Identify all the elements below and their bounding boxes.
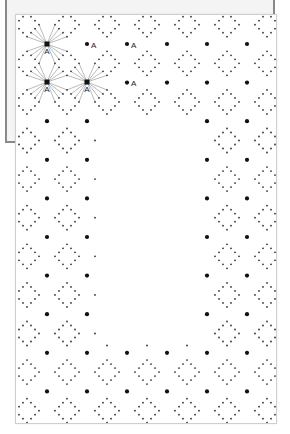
small-dot (194, 375, 196, 377)
small-dot (78, 371, 80, 373)
grid-dot (205, 389, 209, 393)
small-dot (230, 148, 232, 150)
small-dot (274, 406, 276, 408)
small-dot (182, 54, 184, 56)
small-dot (66, 205, 68, 207)
small-dot (74, 290, 76, 292)
small-dot (58, 414, 60, 416)
small-dot (262, 379, 264, 381)
small-dot (34, 182, 36, 184)
small-dot (106, 12, 108, 14)
small-dot (230, 225, 232, 227)
small-dot (270, 93, 272, 95)
small-dot (38, 178, 40, 180)
grid-dot (205, 312, 209, 316)
small-dot (198, 410, 200, 412)
small-dot (154, 375, 156, 377)
small-dot (38, 410, 40, 412)
small-dot (18, 28, 20, 30)
small-dot (66, 345, 68, 347)
small-dot (74, 375, 76, 377)
small-dot (14, 217, 16, 219)
small-dot (278, 24, 280, 26)
small-dot (98, 406, 100, 408)
small-dot (222, 70, 224, 72)
small-dot (234, 406, 236, 408)
small-dot (98, 105, 100, 107)
small-dot (66, 306, 68, 308)
small-dot (94, 178, 96, 180)
small-dot (114, 414, 116, 416)
small-dot (270, 247, 272, 249)
small-dot (218, 28, 220, 30)
small-dot (258, 144, 260, 146)
small-dot (270, 302, 272, 304)
small-dot (102, 109, 104, 111)
grid-dot (45, 274, 49, 278)
small-dot (146, 398, 148, 400)
small-dot (30, 132, 32, 134)
small-dot (226, 36, 228, 38)
small-dot (234, 298, 236, 300)
small-dot (178, 28, 180, 30)
small-dot (178, 97, 180, 99)
small-dot (226, 229, 228, 231)
small-dot (26, 166, 28, 168)
small-dot (58, 182, 60, 184)
small-dot (258, 136, 260, 138)
small-dot (254, 140, 256, 142)
small-dot (222, 93, 224, 95)
small-dot (190, 32, 192, 34)
small-dot (102, 32, 104, 34)
grid-dot (45, 351, 49, 355)
small-dot (234, 66, 236, 68)
small-dot (230, 32, 232, 34)
small-dot (18, 259, 20, 261)
small-dot (18, 97, 20, 99)
small-dot (102, 16, 104, 18)
small-dot (234, 174, 236, 176)
small-dot (66, 36, 68, 38)
small-dot (198, 371, 200, 373)
small-dot (234, 58, 236, 60)
small-dot (186, 89, 188, 91)
small-dot (118, 371, 120, 373)
small-dot (30, 325, 32, 327)
small-dot (66, 12, 68, 14)
small-dot (106, 383, 108, 385)
small-dot (254, 255, 256, 257)
small-dot (58, 290, 60, 292)
small-dot (138, 105, 140, 107)
small-dot (98, 58, 100, 60)
small-dot (22, 148, 24, 150)
small-dot (18, 213, 20, 215)
small-dot (54, 255, 56, 257)
small-dot (70, 70, 72, 72)
small-dot (270, 170, 272, 172)
small-dot (30, 109, 32, 111)
small-dot (222, 263, 224, 265)
small-dot (106, 89, 108, 91)
small-dot (98, 97, 100, 99)
small-dot (70, 363, 72, 365)
small-dot (278, 371, 280, 373)
small-dot (22, 325, 24, 327)
small-dot (114, 66, 116, 68)
small-dot (230, 302, 232, 304)
small-dot (266, 321, 268, 323)
small-dot (214, 140, 216, 142)
small-dot (270, 54, 272, 56)
small-dot (98, 20, 100, 22)
small-dot (222, 16, 224, 18)
small-dot (102, 379, 104, 381)
grid-dot (205, 274, 209, 278)
small-dot (30, 186, 32, 188)
small-dot (194, 105, 196, 107)
small-dot (34, 329, 36, 331)
small-dot (38, 62, 40, 64)
small-dot (226, 89, 228, 91)
small-dot (114, 375, 116, 377)
small-dot (94, 255, 96, 257)
small-dot (218, 105, 220, 107)
small-dot (74, 66, 76, 68)
